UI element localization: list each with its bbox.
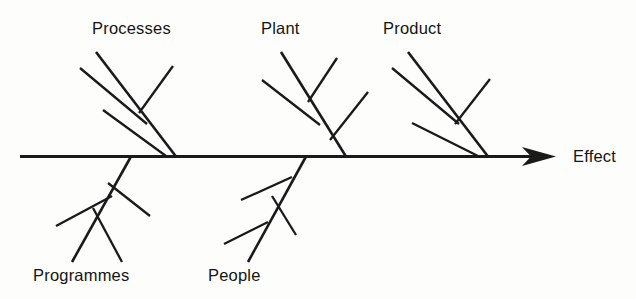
twig-processes-2 [139,66,173,113]
label-programmes: Programmes [33,266,129,284]
twig-plant-3 [330,92,368,140]
branch-product [392,52,490,157]
rib-processes [96,52,176,157]
label-processes: Processes [92,19,171,37]
label-effect: Effect [573,147,616,165]
twig-people-3 [224,222,268,244]
rib-people [248,157,306,263]
label-plant: Plant [261,19,300,37]
twig-product-2 [455,79,490,124]
label-product: Product [383,19,441,37]
rib-plant [281,52,346,157]
twig-product-3 [412,123,478,156]
twig-programmes-2 [56,196,112,226]
label-people: People [208,266,261,284]
branch-people [224,157,306,263]
branch-processes [80,52,176,157]
twig-programmes-3 [93,208,122,262]
branch-programmes [56,157,150,263]
fishbone-canvas: Processes Plant Product Programmes Peopl… [0,0,636,299]
fishbone-diagram: Processes Plant Product Programmes Peopl… [0,0,636,299]
rib-programmes [72,157,131,263]
twig-programmes-1 [108,183,150,216]
branch-plant [262,52,368,157]
spine-group [20,147,556,166]
twig-plant-2 [308,58,337,102]
twig-people-2 [272,196,296,235]
